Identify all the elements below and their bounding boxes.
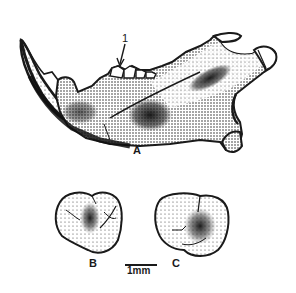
tooth-c-label: C — [172, 258, 180, 269]
tooth-c-drawing — [155, 193, 228, 256]
scientific-figure: 1 A B C 1mm — [0, 0, 296, 293]
tooth-b-drawing — [56, 193, 122, 253]
molar-row — [110, 66, 156, 78]
tooth-b-label: B — [89, 258, 97, 269]
scale-bar-label: 1mm — [127, 266, 150, 276]
mandible-label: A — [133, 145, 141, 156]
mandible-drawing — [0, 0, 296, 293]
pointer-label: 1 — [122, 33, 128, 44]
